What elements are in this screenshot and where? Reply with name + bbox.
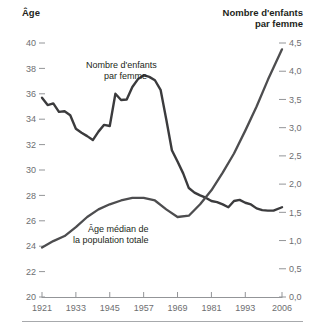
left-axis-ticks: 4038363432302826242220 [26,38,45,302]
right-tick-label: 0,5 [289,264,302,274]
x-tick-label: 1957 [134,303,154,313]
left-tick-label: 38 [26,64,36,74]
right-tick-label: 4,5 [289,38,302,48]
left-tick-label: 28 [26,191,36,201]
x-tick-label: 2006 [272,303,292,313]
left-tick-label: 32 [26,140,36,150]
right-tick-label: 4,0 [289,66,302,76]
right-tick-label: 3,5 [289,95,302,105]
left-tick-label: 22 [26,267,36,277]
right-tick-label: 0,0 [289,292,302,302]
left-axis-title: Âge [22,7,40,18]
left-tick-label: 34 [26,114,36,124]
x-axis-ticks: 19211933194519571969198119932006 [32,292,292,313]
series-line-median-age [42,49,282,247]
annotation-age-line1: Âge médian de [88,224,149,234]
left-tick-label: 26 [26,216,36,226]
x-tick-label: 1945 [100,303,120,313]
left-tick-label: 24 [26,241,36,251]
right-tick-label: 2,0 [289,179,302,189]
annotation-fertility-line1: Nombre d'enfants [86,60,157,70]
right-axis-title-line2: par femme [255,18,303,29]
chart-canvas: Âge Nombre d'enfants par femme 403836343… [0,0,325,329]
right-axis-title-line1: Nombre d'enfants [223,7,303,18]
series-line-fertility [42,75,282,210]
left-tick-label: 20 [26,292,36,302]
x-tick-label: 1969 [168,303,188,313]
x-tick-label: 1993 [235,303,255,313]
annotation-age-line2: la population totale [73,235,149,245]
left-tick-label: 30 [26,165,36,175]
x-tick-label: 1981 [201,303,221,313]
x-tick-label: 1921 [32,303,52,313]
left-tick-label: 36 [26,89,36,99]
x-tick-label: 1933 [66,303,86,313]
annotation-fertility-line2: par femme [104,71,147,81]
right-tick-label: 1,5 [289,208,302,218]
right-axis-ticks: 4,54,03,53,02,52,01,51,00,50,0 [279,38,302,302]
chart-figure: Âge Nombre d'enfants par femme 403836343… [0,0,325,329]
left-tick-label: 40 [26,38,36,48]
right-tick-label: 1,0 [289,236,302,246]
right-tick-label: 3,0 [289,123,302,133]
right-tick-label: 2,5 [289,151,302,161]
